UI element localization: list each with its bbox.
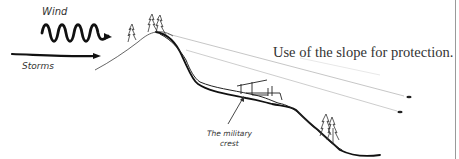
military-crest-label-line2: crest (220, 139, 240, 148)
wind-arrow-icon (42, 25, 112, 42)
wind-label: Wind (42, 6, 68, 17)
military-crest-pointer-icon (228, 96, 244, 124)
target-marks (397, 96, 411, 114)
slope-protection-diagram: Wind Storms (0, 0, 459, 159)
storms-arrow-icon (12, 53, 101, 59)
storms-label: Storms (22, 61, 54, 71)
hilltop-trees-icon (128, 14, 166, 42)
diagram-caption: Use of the slope for protection. (273, 44, 453, 60)
right-border-line (455, 0, 456, 159)
military-crest-label-line1: The military (207, 129, 253, 138)
